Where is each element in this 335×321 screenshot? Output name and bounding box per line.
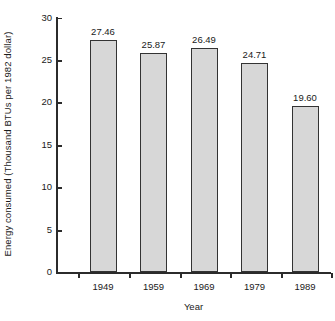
- x-axis-tick-label: 1949: [78, 281, 128, 292]
- y-axis-tick: [57, 145, 62, 147]
- x-axis-tick-label: 1969: [179, 281, 229, 292]
- bar-1969: [191, 48, 218, 272]
- bar-value-label: 25.87: [129, 39, 179, 50]
- y-axis-tick: [57, 102, 62, 104]
- x-axis-tick: [230, 273, 232, 278]
- bar-1989: [292, 106, 319, 272]
- x-axis-tick-label: 1989: [280, 281, 330, 292]
- y-axis-tick-label: 10: [22, 182, 52, 192]
- y-axis-tick-label: 20: [22, 97, 52, 107]
- y-axis-tick: [57, 18, 62, 20]
- x-axis-tick: [331, 273, 333, 278]
- bar-value-label: 26.49: [179, 34, 229, 45]
- x-axis-tick-label: 1959: [129, 281, 179, 292]
- bar-1959: [140, 53, 167, 272]
- x-axis-line: [56, 272, 331, 274]
- bar-value-label: 19.60: [280, 92, 330, 103]
- y-axis-tick-label: 0: [22, 267, 52, 277]
- y-axis-tick-label: 5: [22, 225, 52, 235]
- y-axis-tick: [57, 230, 62, 232]
- x-axis-tick: [129, 273, 131, 278]
- y-axis-tick: [57, 272, 62, 274]
- y-axis-tick: [57, 187, 62, 189]
- x-axis-tick: [281, 273, 283, 278]
- y-axis-tick: [57, 60, 62, 62]
- x-axis-tick-label: 1979: [230, 281, 280, 292]
- bar-1949: [90, 40, 117, 273]
- x-axis-tick: [78, 273, 80, 278]
- x-axis-tick: [180, 273, 182, 278]
- bar-value-label: 27.46: [78, 26, 128, 37]
- bar-chart: Energy consumed (Thousand BTUs per 1982 …: [0, 0, 335, 321]
- y-axis-tick-label: 30: [22, 13, 52, 23]
- y-axis-tick-label: 25: [22, 55, 52, 65]
- y-axis-tick-label: 15: [22, 140, 52, 150]
- y-axis-title: Energy consumed (Thousand BTUs per 1982 …: [2, 5, 16, 283]
- bar-1979: [241, 63, 268, 272]
- x-axis-title: Year: [56, 301, 331, 312]
- bar-value-label: 24.71: [230, 49, 280, 60]
